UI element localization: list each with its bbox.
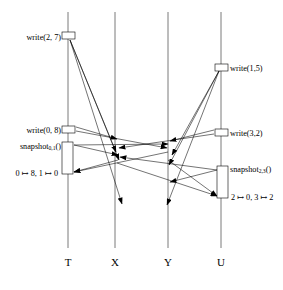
axis-label-y: Y	[164, 256, 172, 268]
message-m-t-write27-to-x-c	[70, 40, 122, 204]
message-m-t-write27-to-x-b	[70, 40, 119, 160]
event-labels-group: write(2, 7)write(1,5)write(0, 8)write(3,…	[16, 33, 274, 202]
event-box-write-2-7	[62, 32, 75, 39]
event-box-snapshot-0-1	[62, 142, 73, 174]
event-label-write-1-5: write(1,5)	[230, 64, 263, 73]
event-box-snapshot-2-3	[217, 166, 228, 198]
axis-label-t: T	[65, 256, 72, 268]
message-m-t-write08-to-x	[76, 127, 117, 139]
event-label-snapshot-2-3: snapshot2,3()	[230, 165, 271, 174]
event-label-write-2-7: write(2, 7)	[26, 33, 61, 42]
message-m-u-write15-to-y-b	[169, 71, 219, 165]
event-result-snapshot-2-3: 2 ↦ 0, 3 ↦ 2	[231, 193, 273, 202]
msc-diagram: write(2, 7)write(1,5)write(0, 8)write(3,…	[0, 0, 283, 290]
messages-group	[70, 40, 219, 205]
message-m-snap01-req-x	[74, 145, 118, 155]
event-box-write-0-8	[62, 126, 75, 133]
message-m-t-write08-to-y	[76, 131, 167, 148]
message-m-snap23-req-y	[170, 170, 217, 182]
message-m-u-write15-to-y-a	[172, 71, 219, 155]
axis-labels-group: TXYU	[65, 256, 225, 268]
event-label-snapshot-0-1: snapshot0,1()	[20, 142, 61, 151]
event-box-write-3-2	[215, 129, 228, 136]
message-m-u-write15-to-y-c	[167, 71, 219, 205]
lifelines-group	[68, 12, 221, 248]
axis-label-x: X	[111, 256, 119, 268]
message-m-snap23-rsp-y	[168, 160, 217, 196]
msc-canvas: write(2, 7)write(1,5)write(0, 8)write(3,…	[0, 0, 283, 290]
event-label-write-0-8: write(0, 8)	[26, 126, 61, 135]
event-label-write-3-2: write(3,2)	[230, 129, 263, 138]
message-m-snap01-rsp-y	[74, 152, 168, 172]
message-m-u-write32-to-x	[119, 134, 214, 148]
event-result-snapshot-0-1: 0 ↦ 8, 1 ↦ 0	[16, 169, 58, 178]
event-box-write-1-5	[215, 64, 228, 71]
message-m-snap01-req-y	[74, 144, 168, 145]
event-boxes-group	[62, 32, 228, 198]
axis-label-u: U	[217, 256, 225, 268]
